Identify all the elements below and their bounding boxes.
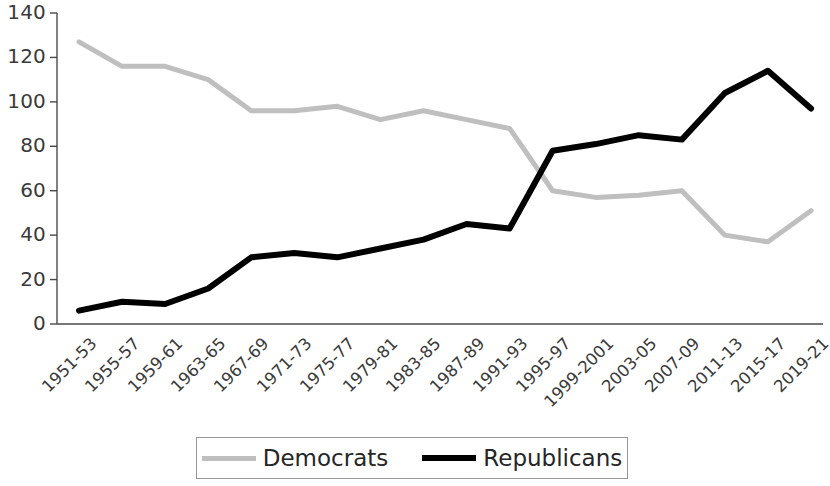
legend-swatch-democrats-icon	[202, 456, 256, 461]
legend-swatch-republicans-icon	[422, 455, 476, 461]
y-axis-tick-label: 140	[0, 0, 46, 24]
y-axis-tick-label: 20	[0, 267, 46, 291]
y-axis-tick-label: 120	[0, 44, 46, 68]
axes	[50, 13, 823, 324]
y-axis-tick-label: 0	[0, 311, 46, 335]
y-axis-tick-label: 60	[0, 178, 46, 202]
series-lines	[79, 42, 811, 311]
y-axis-tick-label: 100	[0, 89, 46, 113]
chart-legend: Democrats Republicans	[196, 437, 628, 479]
y-axis-tick-label: 80	[0, 133, 46, 157]
series-line-democrats	[79, 42, 811, 242]
y-axis-tick-label: 40	[0, 222, 46, 246]
legend-item-democrats: Democrats	[202, 445, 389, 471]
series-line-republicans	[79, 71, 811, 311]
line-chart: 020406080100120140 1951-531955-571959-61…	[0, 0, 830, 486]
y-axis-ticks	[50, 13, 57, 324]
legend-label-democrats: Democrats	[263, 445, 389, 471]
legend-item-republicans: Republicans	[422, 445, 622, 471]
legend-label-republicans: Republicans	[483, 445, 622, 471]
